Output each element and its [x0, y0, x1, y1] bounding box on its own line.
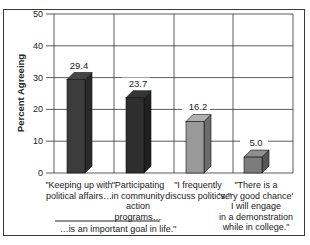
y-tick-label: 30 — [33, 73, 43, 83]
value-label: 29.4 — [70, 60, 89, 71]
category-label: in a demonstration — [219, 212, 293, 222]
annotation: …is an important goal in life." — [60, 224, 177, 234]
value-label: 16.2 — [189, 101, 208, 112]
category-label: I will engage — [231, 201, 281, 211]
category-label: programs… — [114, 212, 161, 222]
category-label: 'very good chance' — [219, 191, 294, 201]
bar — [244, 150, 269, 173]
y-tick-label: 50 — [33, 9, 43, 19]
category-label: "There is a — [234, 180, 277, 190]
bar — [126, 91, 151, 173]
bars: 29.423.716.25.0 — [63, 60, 269, 173]
y-tick-label: 0 — [38, 168, 43, 178]
category-label: political affairs… — [46, 191, 112, 201]
value-label: 5.0 — [249, 137, 262, 148]
category-label: "I frequently — [174, 180, 222, 190]
category-label: "Participating — [112, 180, 165, 190]
category-label: action — [126, 201, 150, 211]
y-tick-label: 40 — [33, 41, 43, 51]
category-label: while in college." — [222, 222, 290, 232]
bar — [67, 73, 92, 173]
value-label: 23.7 — [129, 78, 148, 89]
bar-chart: 01020304050 Percent Agreeing 29.423.716.… — [0, 0, 310, 245]
y-tick-label: 20 — [33, 104, 43, 114]
category-label: "Keeping up with — [45, 180, 112, 190]
y-axis-ticks: 01020304050 — [33, 9, 43, 178]
y-tick-label: 10 — [33, 136, 43, 146]
category-label: in community — [111, 191, 165, 201]
bar — [186, 114, 211, 173]
y-axis-label: Percent Agreeing — [15, 54, 26, 133]
